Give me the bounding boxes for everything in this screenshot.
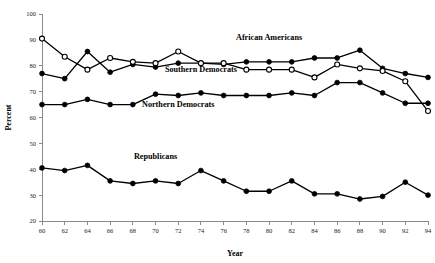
x-tick-label: 86: [334, 227, 341, 234]
axes: 2030405060708090100606264666870727476788…: [26, 10, 432, 233]
y-axis-title: Percent: [4, 104, 13, 130]
x-tick-label: 60: [39, 227, 46, 234]
data-point: [289, 67, 294, 72]
x-tick-label: 66: [107, 227, 114, 234]
x-tick-label: 80: [266, 227, 273, 234]
y-tick-label: 30: [30, 192, 37, 199]
series-labels: African AmericansSouthern DemocratsNorth…: [134, 33, 302, 161]
series-label-southern-democrats: Southern Democrats: [165, 65, 237, 74]
data-point: [62, 54, 67, 59]
data-point: [221, 178, 226, 183]
data-point: [380, 91, 385, 96]
x-tick-label: 90: [379, 227, 386, 234]
data-point: [357, 48, 362, 53]
line-chart: 2030405060708090100606264666870727476788…: [0, 0, 435, 263]
series-group: [40, 36, 431, 201]
data-point: [267, 93, 272, 98]
x-tick-label: 94: [425, 227, 432, 234]
data-point: [176, 181, 181, 186]
series-line: [42, 165, 428, 199]
data-point: [244, 189, 249, 194]
x-tick-label: 88: [357, 227, 364, 234]
data-point: [85, 97, 90, 102]
data-point: [244, 93, 249, 98]
data-point: [380, 68, 385, 73]
data-point: [357, 80, 362, 85]
data-point: [62, 102, 67, 107]
data-point: [85, 67, 90, 72]
data-point: [312, 75, 317, 80]
data-point: [40, 102, 45, 107]
data-point: [403, 180, 408, 185]
data-point: [85, 49, 90, 54]
y-tick-label: 50: [30, 140, 37, 147]
y-tick-label: 90: [30, 36, 37, 43]
data-point: [312, 56, 317, 61]
x-tick-label: 76: [220, 227, 227, 234]
data-point: [199, 91, 204, 96]
x-tick-label: 72: [175, 227, 182, 234]
series-republicans: [40, 163, 431, 201]
data-point: [130, 102, 135, 107]
data-point: [199, 168, 204, 173]
data-point: [357, 66, 362, 71]
data-point: [153, 92, 158, 97]
data-point: [244, 59, 249, 64]
x-tick-label: 84: [311, 227, 318, 234]
data-point: [380, 194, 385, 199]
data-point: [130, 181, 135, 186]
data-point: [267, 189, 272, 194]
data-point: [267, 67, 272, 72]
x-tick-label: 74: [198, 227, 205, 234]
data-point: [289, 91, 294, 96]
data-point: [85, 163, 90, 168]
data-point: [108, 178, 113, 183]
data-point: [221, 93, 226, 98]
series-line: [42, 83, 428, 105]
data-point: [176, 93, 181, 98]
data-point: [267, 59, 272, 64]
data-point: [40, 36, 45, 41]
series-label-african-americans: African Americans: [236, 33, 302, 42]
data-point: [335, 62, 340, 67]
data-point: [40, 166, 45, 171]
data-point: [130, 59, 135, 64]
data-point: [289, 178, 294, 183]
data-point: [289, 59, 294, 64]
data-point: [108, 55, 113, 60]
data-point: [40, 71, 45, 76]
data-point: [153, 178, 158, 183]
data-point: [176, 49, 181, 54]
x-tick-label: 70: [152, 227, 159, 234]
data-point: [403, 79, 408, 84]
x-tick-label: 82: [289, 227, 296, 234]
chart-container: 2030405060708090100606264666870727476788…: [0, 0, 435, 263]
x-axis-title: Year: [227, 249, 243, 258]
data-point: [426, 109, 431, 114]
x-tick-label: 78: [243, 227, 250, 234]
data-point: [335, 191, 340, 196]
series-line: [42, 39, 428, 111]
data-point: [108, 102, 113, 107]
data-point: [426, 101, 431, 106]
data-point: [108, 70, 113, 75]
data-point: [403, 101, 408, 106]
data-point: [357, 197, 362, 202]
series-label-republicans: Republicans: [134, 152, 177, 161]
series-northern-democrats: [40, 80, 431, 107]
data-point: [244, 67, 249, 72]
data-point: [312, 93, 317, 98]
y-tick-label: 70: [30, 88, 37, 95]
data-point: [426, 193, 431, 198]
x-tick-label: 64: [84, 227, 91, 234]
data-point: [312, 191, 317, 196]
x-tick-label: 92: [402, 227, 409, 234]
y-tick-label: 20: [30, 217, 37, 224]
y-tick-label: 40: [30, 166, 37, 173]
y-tick-label: 100: [26, 10, 36, 17]
data-point: [403, 71, 408, 76]
series-label-northern-democrats: Northern Democrats: [142, 100, 215, 109]
x-tick-label: 62: [61, 227, 68, 234]
data-point: [335, 56, 340, 61]
y-tick-label: 60: [30, 114, 37, 121]
